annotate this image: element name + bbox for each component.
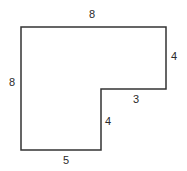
l-shape-diagram: 8 8 4 3 4 5 [0, 0, 187, 171]
label-bottom-side: 5 [63, 154, 69, 166]
label-top-side: 8 [89, 8, 95, 20]
label-inner-vertical-side: 4 [105, 115, 111, 127]
label-inner-horizontal-side: 3 [133, 93, 139, 105]
l-shape-outline [21, 27, 166, 150]
label-right-upper-side: 4 [171, 50, 177, 62]
label-left-side: 8 [9, 76, 15, 88]
